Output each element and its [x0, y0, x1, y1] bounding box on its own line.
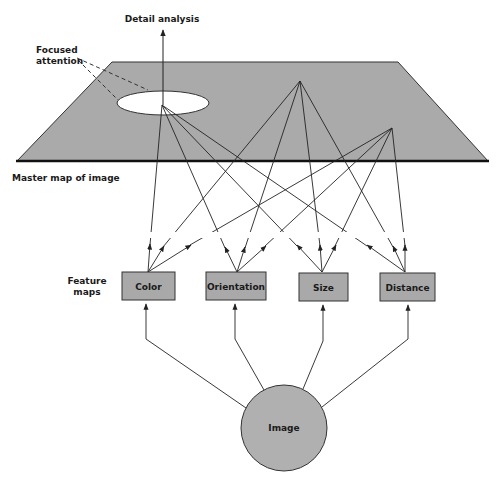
image-label: Image	[268, 423, 299, 433]
feature-label: Color	[135, 282, 162, 292]
focused-attention-label-2: attention	[36, 56, 83, 66]
image-node: Image	[241, 385, 327, 471]
master-map-plane	[16, 62, 489, 161]
feature-map-size: Size	[299, 273, 348, 301]
feature-map-color: Color	[122, 272, 175, 300]
feature-maps-label-2: maps	[73, 287, 100, 297]
line-gaps	[140, 232, 430, 238]
feature-arrows	[148, 244, 405, 272]
feature-maps-label-1: Feature	[67, 276, 106, 286]
feature-label: Size	[313, 283, 334, 293]
focused-attention-label-1: Focused	[36, 45, 78, 55]
feature-map-orientation: Orientation	[206, 272, 266, 300]
feature-map-distance: Distance	[380, 273, 435, 301]
diagram: Color Orientation Size Distance Image De…	[0, 0, 501, 479]
feature-label: Orientation	[207, 282, 265, 292]
detail-analysis-label: Detail analysis	[125, 14, 200, 24]
feature-label: Distance	[385, 283, 429, 293]
master-map-label: Master map of image	[12, 173, 120, 183]
